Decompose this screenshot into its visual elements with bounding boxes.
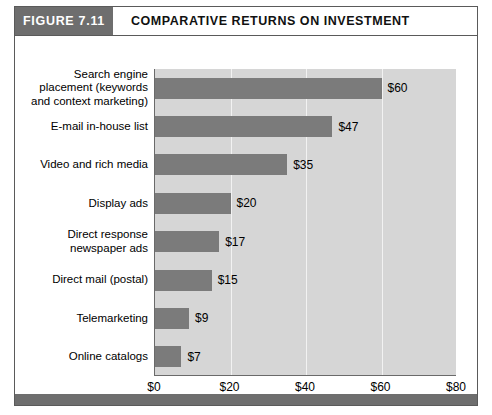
chart-body: Search engine placement (keywords and co…: [15, 36, 477, 405]
category-label: Online catalogs: [15, 350, 148, 364]
x-axis-tick-label: $60: [370, 380, 390, 394]
category-label: Telemarketing: [15, 312, 148, 326]
figure-screenshot: FIGURE 7.11 COMPARATIVE RETURNS ON INVES…: [0, 0, 492, 415]
figure-bottom-rule: [15, 394, 477, 405]
category-label: Video and rich media: [15, 158, 148, 172]
figure-container: FIGURE 7.11 COMPARATIVE RETURNS ON INVES…: [14, 6, 478, 406]
figure-header: FIGURE 7.11 COMPARATIVE RETURNS ON INVES…: [15, 7, 477, 36]
x-axis-tick-label: $20: [219, 380, 239, 394]
bar: [155, 78, 382, 99]
bar-value-label: $7: [187, 350, 200, 364]
bar-value-label: $15: [218, 273, 238, 287]
bar-value-label: $20: [237, 196, 257, 210]
category-label: Display ads: [15, 197, 148, 211]
bar-value-label: $9: [195, 311, 208, 325]
bar: [155, 231, 219, 252]
bar-value-label: $60: [388, 81, 408, 95]
bar: [155, 346, 181, 367]
bar: [155, 154, 287, 175]
bar: [155, 193, 231, 214]
x-axis-tick-label: $40: [295, 380, 315, 394]
bar: [155, 308, 189, 329]
bar-value-label: $17: [225, 235, 245, 249]
category-label: Direct mail (postal): [15, 273, 148, 287]
x-axis-tick-label: $0: [147, 380, 160, 394]
bar-value-label: $35: [293, 158, 313, 172]
figure-number-tag: FIGURE 7.11: [15, 7, 113, 35]
x-axis-tick-label: $80: [446, 380, 466, 394]
bar-value-label: $47: [338, 120, 358, 134]
bar-rows: Search engine placement (keywords and co…: [15, 69, 477, 376]
bar: [155, 270, 212, 291]
category-label: Search engine placement (keywords and co…: [15, 68, 148, 109]
category-label: E-mail in-house list: [15, 120, 148, 134]
figure-title: COMPARATIVE RETURNS ON INVESTMENT: [113, 7, 477, 35]
bar: [155, 116, 332, 137]
category-label: Direct response newspaper ads: [15, 228, 148, 255]
